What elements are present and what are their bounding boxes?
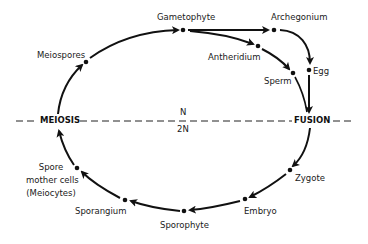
dot-meiospores [84,60,89,65]
antheridium-label: Antheridium [208,53,260,62]
dot-egg [307,68,312,73]
arrow-gametophyte-to-antheridium [190,31,253,44]
spore-mother-cells-line-1: Spore [26,161,76,174]
dot-sporophyte [182,209,187,214]
arrow-meiosis-to-meiospores [58,65,82,114]
dot-sporangium [123,198,128,203]
zygote-label: Zygote [295,174,325,183]
dot-embryo [243,197,248,202]
dot-antheridium [256,44,261,49]
sporangium-label: Sporangium [75,207,127,216]
arrow-archegonium-to-egg [280,30,310,63]
gametophyte-label: Gametophyte [157,13,215,22]
meiosis-label: MEIOSIS [40,116,80,125]
arrow-sporophyte-to-sporangium [131,201,180,211]
egg-label: Egg [313,67,329,76]
arrow-zygote-to-embryo [250,174,286,197]
dot-sperm [291,71,296,76]
archegonium-label: Archegonium [271,13,327,22]
fusion-label: FUSION [294,116,330,125]
diploid-label: 2N [177,125,189,134]
arrow-sporangium-to-sporemothercells [82,172,120,198]
arrow-meiospores-to-gametophyte [90,30,178,58]
arrow-embryo-to-sporophyte [190,201,240,210]
arrow-sporemothercells-to-meiosis [59,131,74,165]
embryo-label: Embryo [244,207,277,216]
sporophyte-label: Sporophyte [160,221,209,230]
dot-zygote [288,168,293,173]
spore-mother-cells-label: Spore mother cells (Meiocytes) [26,161,76,200]
spore-mother-cells-line-3: (Meiocytes) [26,187,76,200]
dot-archegonium [272,28,277,33]
spore-mother-cells-line-2: mother cells [26,174,76,187]
dot-gametophyte [181,28,186,33]
haploid-label: N [180,108,186,117]
arrow-antheridium-to-sperm [262,49,289,69]
sperm-label: Sperm [264,77,292,86]
arrow-fusion-to-zygote [293,128,310,166]
meiospores-label: Meiospores [37,51,85,60]
arrow-sperm-to-fusion [295,77,307,112]
